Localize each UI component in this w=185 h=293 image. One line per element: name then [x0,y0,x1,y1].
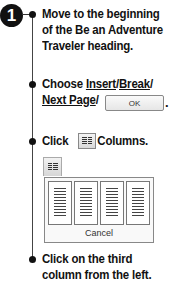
cancel-button[interactable]: Cancel [45,228,153,238]
column-option-1[interactable] [48,181,72,225]
column-option-2[interactable] [74,181,98,225]
column-option-4[interactable] [126,181,150,225]
menu-break: Break [119,76,150,91]
instruction-4: Click on the third column from the left. [42,251,151,283]
columns-icon[interactable] [78,133,96,149]
instruction-1: Move to the beginning of the Be an Adven… [42,6,163,54]
bullet-icon [29,138,36,145]
bullet-icon [29,81,36,88]
option-next-page: Next Page [42,92,96,107]
step-number-badge: 1 [0,4,23,27]
bullet-icon [29,256,36,263]
bullet-icon [29,11,36,18]
timeline-line [32,14,33,260]
columns-picker: Cancel [44,177,154,243]
ok-button[interactable]: OK [105,95,164,111]
columns-tab-icon[interactable] [43,157,62,176]
menu-insert: Insert [86,76,116,91]
column-option-3[interactable] [100,181,124,225]
